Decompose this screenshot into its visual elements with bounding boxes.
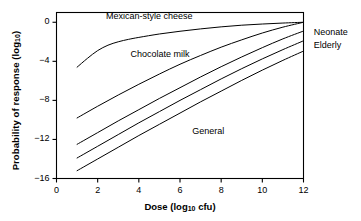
annotation-mexican-style-cheese: Mexican-style cheese <box>106 11 193 21</box>
annotation-neonate: Neonate <box>314 27 348 37</box>
axes-frame <box>57 13 304 179</box>
annotation-chocolate-milk: Chocolate milk <box>131 49 190 59</box>
y-axis-title-tail: ) <box>10 31 21 34</box>
annotation-elderly: Elderly <box>314 40 342 50</box>
curve-lines <box>77 22 303 170</box>
chart-figure: Probability of response (log10) Dose (lo… <box>0 0 361 221</box>
x-tick-label-6: 6 <box>165 185 195 195</box>
x-tick-label-0: 0 <box>42 185 72 195</box>
y-axis-title-main: Probability of response (log <box>10 42 21 170</box>
annotation-general: General <box>192 126 224 136</box>
y-tick-label-16: −16 <box>24 173 50 183</box>
y-tick-label-12: −12 <box>24 133 50 143</box>
x-axis-title-tail: cfu) <box>196 201 216 212</box>
curve-chocolate-milk <box>77 22 303 118</box>
x-tick-label-12: 12 <box>289 185 319 195</box>
x-axis-title-main: Dose (log <box>144 201 187 212</box>
x-tick-label-4: 4 <box>124 185 154 195</box>
y-axis-title-sub: 10 <box>14 34 21 42</box>
x-tick-label-8: 8 <box>206 185 236 195</box>
y-tick-label-0: 0 <box>24 16 50 26</box>
curve-neonate <box>77 31 303 144</box>
x-axis-title-sub: 10 <box>188 205 196 212</box>
curve-general <box>77 51 303 171</box>
x-tick-label-2: 2 <box>83 185 113 195</box>
y-tick-label-4: −4 <box>24 55 50 65</box>
y-axis-title: Probability of response (log10) <box>10 16 21 186</box>
y-tick-label-8: −8 <box>24 94 50 104</box>
plot-border <box>57 13 304 179</box>
x-axis-title: Dose (log10 cfu) <box>56 201 304 212</box>
x-tick-label-10: 10 <box>247 185 277 195</box>
